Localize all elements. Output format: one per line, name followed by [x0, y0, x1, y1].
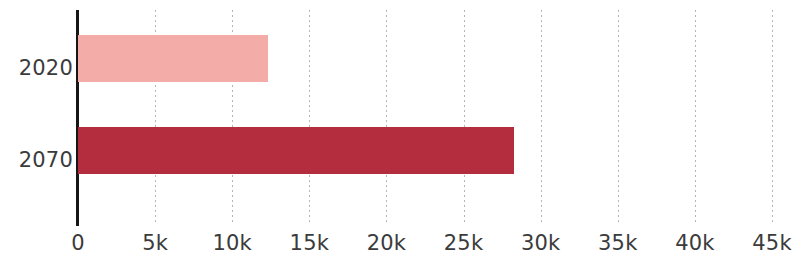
gridline: [772, 10, 773, 225]
category-label-2070: 2070: [0, 150, 73, 171]
x-tick-label-5k: 5k: [142, 232, 168, 254]
x-tick-label-25k: 25k: [444, 232, 483, 254]
x-tick-label-0: 0: [71, 232, 85, 254]
x-tick-label-45k: 45k: [752, 232, 791, 254]
gridline: [618, 10, 619, 225]
gridline: [464, 10, 465, 225]
x-tick-label-30k: 30k: [521, 232, 560, 254]
gridline: [695, 10, 696, 225]
x-tick-label-15k: 15k: [290, 232, 329, 254]
bar-chart: 2020207005k10k15k20k25k30k35k40k45k: [0, 0, 795, 264]
x-tick-label-40k: 40k: [675, 232, 714, 254]
gridline: [386, 10, 387, 225]
x-tick-label-10k: 10k: [212, 232, 251, 254]
bar-2020: [78, 35, 268, 82]
x-tick-label-20k: 20k: [367, 232, 406, 254]
x-tick-label-35k: 35k: [598, 232, 637, 254]
gridline: [541, 10, 542, 225]
category-label-2020: 2020: [0, 58, 73, 79]
gridline: [309, 10, 310, 225]
bar-2070: [78, 127, 514, 174]
